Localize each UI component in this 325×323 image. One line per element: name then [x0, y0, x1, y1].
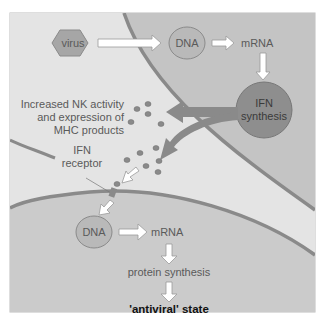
antiviral-state-label: 'antiviral' state	[104, 303, 234, 316]
target-dna-label: DNA	[77, 226, 111, 239]
nk-activity-line-1: Increased NK activity	[10, 98, 124, 111]
infected-mrna-label: mRNA	[241, 37, 273, 50]
ifn-synthesis-label-1: IFN	[236, 97, 292, 110]
ifn-receptor-label-2: receptor	[55, 157, 109, 170]
protein-synthesis-label: protein synthesis	[109, 266, 229, 279]
ifn-diagram: virus DNA mRNA IFN synthesis Increased N…	[0, 0, 325, 323]
virus-label: virus	[58, 37, 88, 50]
nk-activity-line-3: MHC products	[10, 124, 124, 137]
ifn-synthesis-label-2: synthesis	[236, 110, 292, 123]
target-mrna-label: mRNA	[151, 226, 183, 239]
ifn-receptor-label-1: IFN	[60, 144, 104, 157]
nk-activity-line-2: and expression of	[10, 111, 124, 124]
infected-dna-label: DNA	[170, 37, 204, 50]
